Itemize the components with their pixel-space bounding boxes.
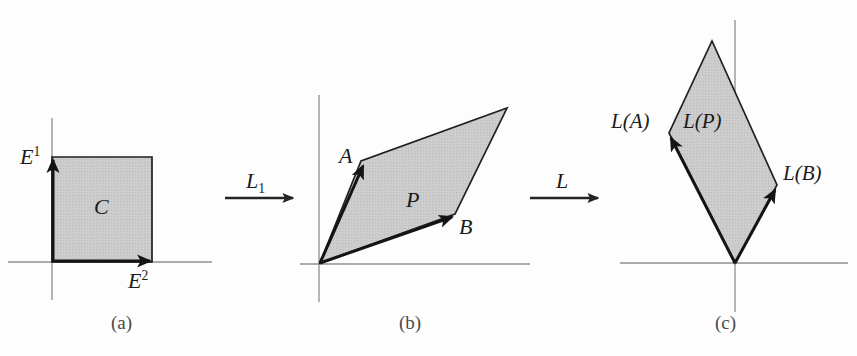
figure-container: E1 E2 C (a) L1 A B P (b) L L(A) L(B) L(P… [0, 0, 857, 356]
label-E1-superscript: 1 [33, 144, 40, 159]
label-shape-LP: L(P) [683, 111, 722, 132]
label-transform-L: L [556, 170, 568, 192]
label-transform-L1-subscript: 1 [258, 181, 265, 196]
caption-panel-c: (c) [715, 312, 736, 334]
label-E2: E2 [128, 270, 148, 292]
label-shape-C: C [94, 196, 109, 218]
panel-c-parallelogram-LP [669, 41, 777, 263]
label-vector-A: A [339, 145, 352, 167]
caption-panel-b: (b) [399, 312, 421, 334]
diagram-canvas [0, 0, 857, 356]
label-E1: E1 [20, 146, 40, 168]
label-transform-L1-base: L [246, 168, 258, 193]
label-vector-LA: L(A) [611, 111, 650, 132]
label-E1-base: E [20, 144, 33, 169]
panel-b-parallelogram-P [320, 108, 507, 263]
label-transform-L1: L1 [246, 170, 265, 192]
label-E2-superscript: 2 [141, 268, 148, 283]
label-E2-base: E [128, 268, 141, 293]
label-vector-LB: L(B) [783, 163, 822, 184]
caption-panel-a: (a) [111, 312, 132, 334]
label-shape-P: P [406, 189, 419, 211]
label-vector-B: B [459, 216, 472, 238]
